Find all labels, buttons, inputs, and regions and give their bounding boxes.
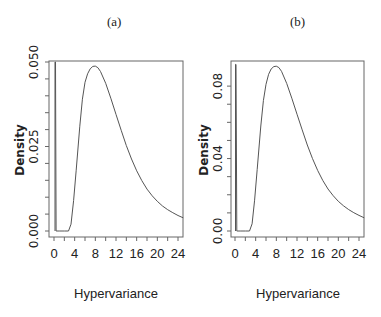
- y-tick-label: 0.025: [27, 129, 41, 163]
- x-tick-label: 24: [352, 246, 366, 261]
- x-tick-label: 4: [71, 246, 78, 261]
- density-charts: 0.0000.0250.05004812162024DensityHyperva…: [0, 0, 381, 317]
- x-tick-label: 12: [109, 246, 123, 261]
- panel-a: 0.0000.0250.05004812162024DensityHyperva…: [13, 45, 185, 301]
- x-tick-label: 8: [92, 246, 99, 261]
- y-tick-label: 0.00: [211, 218, 225, 245]
- panel-b: 0.000.040.0804812162024DensityHypervaria…: [197, 61, 366, 301]
- x-tick-label: 24: [171, 246, 185, 261]
- x-tick-label: 8: [273, 246, 280, 261]
- density-curve: [236, 64, 365, 231]
- plot-frame: [231, 61, 364, 237]
- y-tick-label: 0.050: [27, 45, 41, 79]
- x-tick-label: 16: [310, 246, 324, 261]
- x-tick-label: 0: [231, 246, 238, 261]
- x-tick-label: 12: [290, 246, 304, 261]
- y-axis-label: Density: [197, 124, 211, 176]
- y-axis-label: Density: [13, 124, 27, 176]
- x-tick-label: 0: [50, 246, 57, 261]
- y-tick-label: 0.000: [27, 214, 41, 248]
- y-tick-label: 0.08: [211, 73, 225, 100]
- x-axis-label: Hypervariance: [74, 286, 158, 301]
- x-tick-label: 20: [150, 246, 164, 261]
- x-tick-label: 20: [331, 246, 345, 261]
- x-tick-label: 4: [252, 246, 259, 261]
- x-axis-label: Hypervariance: [256, 286, 340, 301]
- y-tick-label: 0.04: [211, 145, 225, 172]
- plot-frame: [49, 61, 183, 237]
- x-tick-label: 16: [129, 246, 143, 261]
- density-curve: [55, 62, 183, 231]
